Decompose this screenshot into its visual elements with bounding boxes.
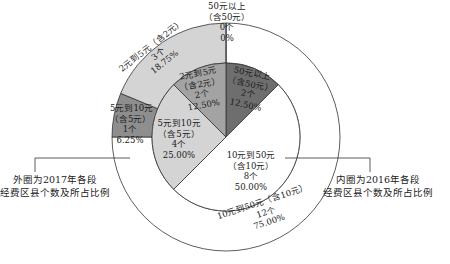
legend-inner-ring: 内圈为2016年各段 经费区县个数及所占比例 xyxy=(318,173,438,199)
label-pct: 6.25% xyxy=(110,135,150,146)
label-text: 5元到10元 xyxy=(110,103,150,114)
legend-text: 经费区县个数及所占比例 xyxy=(318,186,438,199)
label-outer-50-plus: 50元以上 （含50元） 0个 0% xyxy=(202,1,252,43)
label-text: 10元到50元 xyxy=(221,150,281,161)
label-count: 8个 xyxy=(221,171,281,182)
label-count: 0个 xyxy=(202,22,252,33)
label-pct: 50.00% xyxy=(221,182,281,193)
label-text: （含5元） xyxy=(151,129,207,140)
label-outer-5-10: 5元到10元 （含5元） 1个 6.25% xyxy=(110,103,150,145)
label-inner-10-50: 10元到50元 （含10元） 8个 50.00% xyxy=(221,150,281,192)
label-pct: 0% xyxy=(202,33,252,44)
label-text: （含10元） xyxy=(221,161,281,172)
label-text: （含50元） xyxy=(202,12,252,23)
legend-text: 经费区县个数及所占比例 xyxy=(0,186,110,199)
label-text: （含5元） xyxy=(110,114,150,125)
label-inner-5-10: 5元到10元 （含5元） 4个 25.00% xyxy=(151,118,207,160)
legend-text: 内圈为2016年各段 xyxy=(318,173,438,186)
label-text: 5元到10元 xyxy=(151,118,207,129)
label-count: 1个 xyxy=(110,124,150,135)
label-pct: 25.00% xyxy=(151,150,207,161)
legend-outer-ring: 外圈为2017年各段 经费区县个数及所占比例 xyxy=(0,173,110,199)
label-count: 4个 xyxy=(151,139,207,150)
label-text: 50元以上 xyxy=(202,1,252,12)
legend-text: 外圈为2017年各段 xyxy=(0,173,110,186)
label-inner-2-5: 2元到5元 （含2元） 2个 12.50% xyxy=(175,64,228,113)
